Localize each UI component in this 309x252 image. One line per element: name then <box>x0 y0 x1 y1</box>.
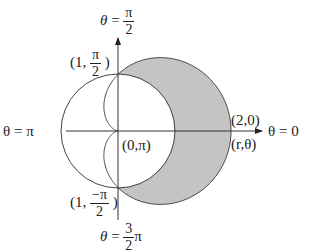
label-theta-3pi-over-2: θ = 32π <box>100 222 142 252</box>
label-theta-pi: θ = π <box>3 124 34 139</box>
label-theta-pi-over-2: θ = π2 <box>100 6 134 37</box>
label-point-2-0: (2,0) <box>231 113 260 128</box>
label-point-r-theta: (r,θ) <box>231 137 256 152</box>
label-origin-point: (0,π) <box>122 138 151 153</box>
label-theta-0: θ = 0 <box>268 124 299 139</box>
label-point-1-pi-over-2: (1, π2 ) <box>70 48 110 79</box>
label-point-1-neg-pi-over-2: (1, −π2 ) <box>70 188 118 219</box>
polar-diagram <box>0 0 309 252</box>
